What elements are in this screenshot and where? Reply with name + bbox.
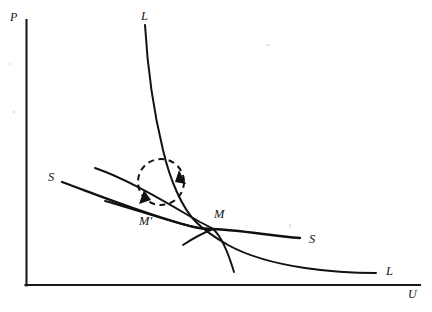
l-curve-label-right: L [386,265,393,278]
scan-speck [266,44,270,46]
s-line-tail-path [183,229,213,245]
s-line-stub-path [105,201,213,229]
s-line-label-right: S [309,233,315,246]
scan-speck [12,111,15,113]
unemployment-axis-label: U [408,288,417,300]
l-curve-label-top: L [141,10,148,23]
economics-figure: P U L L S S M M' [0,0,432,312]
l-curve-path [145,25,376,273]
scan-speck [9,63,11,65]
figure-canvas [0,0,432,312]
point-m-prime-label: M' [139,215,153,228]
scan-speck [289,223,291,229]
point-m-label: M [214,208,225,221]
s-line-label-left: S [48,171,54,184]
price-axis-label: P [10,11,18,23]
